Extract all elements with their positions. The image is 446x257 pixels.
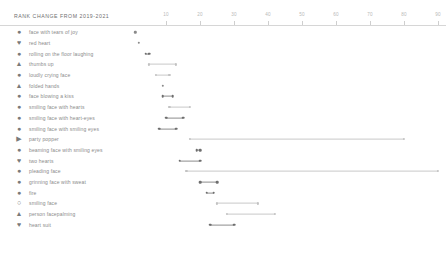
chart-row: ●rolling on the floor laughing (0, 48, 446, 59)
folded-hands-icon: ▲ (15, 82, 23, 90)
range-dot-start (165, 117, 168, 120)
rank-change-chart: RANK CHANGE FROM 2019-2021 1020304050607… (0, 0, 446, 257)
range-dot-end (403, 138, 405, 140)
row-label: rolling on the floor laughing (29, 51, 93, 57)
chart-row: ●face with tears of joy (0, 27, 446, 38)
loudly-crying-face-icon: ● (15, 71, 23, 79)
row-label: beaming face with smiling eyes (29, 147, 103, 153)
x-axis-tick-label: 80 (401, 12, 407, 17)
x-axis-tick-label: 10 (163, 12, 169, 17)
range-dot-end (437, 170, 439, 172)
row-label: folded hands (29, 83, 59, 89)
row-label: smiling face (29, 200, 57, 206)
x-axis-tick (302, 21, 303, 25)
range-dot-start (148, 63, 150, 65)
range-dot-end (175, 127, 178, 130)
range-dot-start (189, 138, 191, 140)
range-dot-start (168, 106, 170, 108)
chart-row: ●loudly crying face (0, 70, 446, 81)
red-heart-icon: ♥ (15, 39, 23, 47)
row-label: thumbs up (29, 61, 54, 67)
range-dot-start (209, 223, 212, 226)
range-dot-start (199, 181, 202, 184)
chart-row: ▲thumbs up (0, 59, 446, 70)
row-label: red heart (29, 40, 50, 46)
range-dot-start (195, 149, 198, 152)
row-label: smiling face with smiling eyes (29, 126, 99, 132)
party-popper-icon: ▶ (15, 135, 23, 143)
pleading-face-icon: ● (15, 167, 23, 175)
x-axis-tick (234, 21, 235, 25)
range-connector (217, 203, 258, 204)
chart-row: ○smiling face (0, 198, 446, 209)
chart-row: ●fire (0, 187, 446, 198)
chart-row: ▲person facepalming (0, 209, 446, 220)
x-axis-tick (336, 21, 337, 25)
x-axis-tick-label: 50 (299, 12, 305, 17)
range-connector (186, 171, 438, 172)
x-axis-tick-label: 20 (197, 12, 203, 17)
chart-rows: ●face with tears of joy♥red heart●rollin… (0, 27, 446, 230)
row-label: loudly crying face (29, 72, 70, 78)
range-dot-start (155, 74, 157, 76)
range-dot-end (182, 117, 185, 120)
x-axis-tick (166, 21, 167, 25)
chart-row: ●smiling face with hearts (0, 102, 446, 113)
chart-title: RANK CHANGE FROM 2019-2021 (14, 13, 109, 19)
grinning-face-with-sweat-icon: ● (15, 178, 23, 186)
range-dot-start (206, 191, 209, 194)
rolling-on-the-floor-laughing-icon: ● (15, 50, 23, 58)
row-label: smiling face with hearts (29, 104, 85, 110)
range-connector (166, 117, 183, 118)
range-dot-start (161, 95, 164, 98)
range-dot-end (199, 159, 202, 162)
x-axis-tick-label: 30 (231, 12, 237, 17)
range-dot-end (148, 52, 151, 55)
range-connector (159, 128, 176, 129)
range-dot-start (216, 202, 218, 204)
range-dot-end (257, 202, 259, 204)
beaming-face-with-smiling-eyes-icon: ● (15, 146, 23, 154)
row-label: grinning face with sweat (29, 179, 86, 185)
range-dot-end (168, 74, 170, 76)
row-label: two hearts (29, 158, 54, 164)
range-dot-start (185, 170, 187, 172)
x-axis-tick-label: 90 (435, 12, 441, 17)
chart-row: ♥heart suit (0, 219, 446, 230)
row-label: heart suit (29, 222, 51, 228)
person-facepalming-icon: ▲ (15, 210, 23, 218)
x-axis-tick (200, 21, 201, 25)
chart-row: ●smiling face with heart-eyes (0, 113, 446, 124)
range-connector (169, 107, 189, 108)
thumbs-up-icon: ▲ (15, 60, 23, 68)
range-dot-start (226, 213, 228, 215)
x-axis-tick (370, 21, 371, 25)
row-label: face blowing a kiss (29, 93, 74, 99)
smiling-face-icon: ○ (15, 199, 23, 207)
chart-row: ▲folded hands (0, 80, 446, 91)
range-dot-end (189, 106, 191, 108)
two-hearts-icon: ♥ (15, 157, 23, 165)
face-with-tears-of-joy-icon: ● (15, 28, 23, 36)
chart-row: ♥red heart (0, 38, 446, 49)
heart-suit-icon: ♥ (15, 221, 23, 229)
fire-icon: ● (15, 189, 23, 197)
range-connector (180, 160, 200, 161)
row-label: person facepalming (29, 211, 75, 217)
range-connector (227, 214, 275, 215)
x-axis-tick-label: 60 (333, 12, 339, 17)
row-label: smiling face with heart-eyes (29, 115, 95, 121)
chart-row: ●grinning face with sweat (0, 177, 446, 188)
range-dot-end (175, 63, 177, 65)
range-dot-end (172, 95, 175, 98)
range-connector (210, 224, 234, 225)
range-dot-end (216, 181, 219, 184)
range-connector (149, 64, 176, 65)
x-axis-tick-label: 40 (265, 12, 271, 17)
chart-row: ●pleading face (0, 166, 446, 177)
smiling-face-with-heart-eyes-icon: ● (15, 114, 23, 122)
point-dot (161, 85, 163, 87)
chart-row: ♥two hearts (0, 155, 446, 166)
x-axis-tick (438, 21, 439, 25)
row-label: pleading face (29, 168, 61, 174)
